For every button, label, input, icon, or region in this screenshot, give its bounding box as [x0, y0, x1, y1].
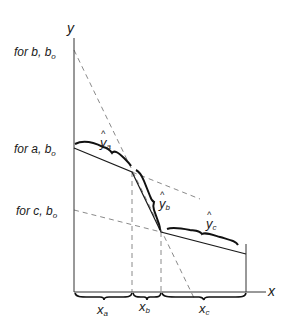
intercept-label-b: for b, bo — [14, 45, 56, 61]
intercept-label-c: for c, bo — [16, 204, 58, 220]
dashed-line-b — [74, 50, 195, 300]
segment-label-yc: ^ yc — [205, 210, 217, 232]
svg-text:ya: ya — [99, 135, 112, 151]
intercept-label-a: for a, bo — [14, 142, 56, 158]
interval-label-xa: xa — [96, 302, 109, 318]
brace-xb — [133, 293, 161, 300]
interval-label-xb: xb — [138, 299, 151, 315]
dashed-line-c — [74, 210, 161, 232]
brace-xa — [75, 293, 132, 300]
piecewise-regression-diagram: y x for b, bo for a, bo for c, bo ^ ya ^… — [0, 0, 291, 327]
svg-text:yc: yc — [205, 216, 217, 232]
svg-text:yb: yb — [158, 196, 171, 212]
segment-label-yb: ^ yb — [158, 190, 171, 212]
brace-xc — [162, 293, 246, 300]
segment-label-ya: ^ ya — [99, 129, 112, 151]
x-axis-label: x — [267, 283, 276, 299]
y-axis-label: y — [66, 20, 75, 36]
interval-label-xc: xc — [198, 301, 210, 317]
